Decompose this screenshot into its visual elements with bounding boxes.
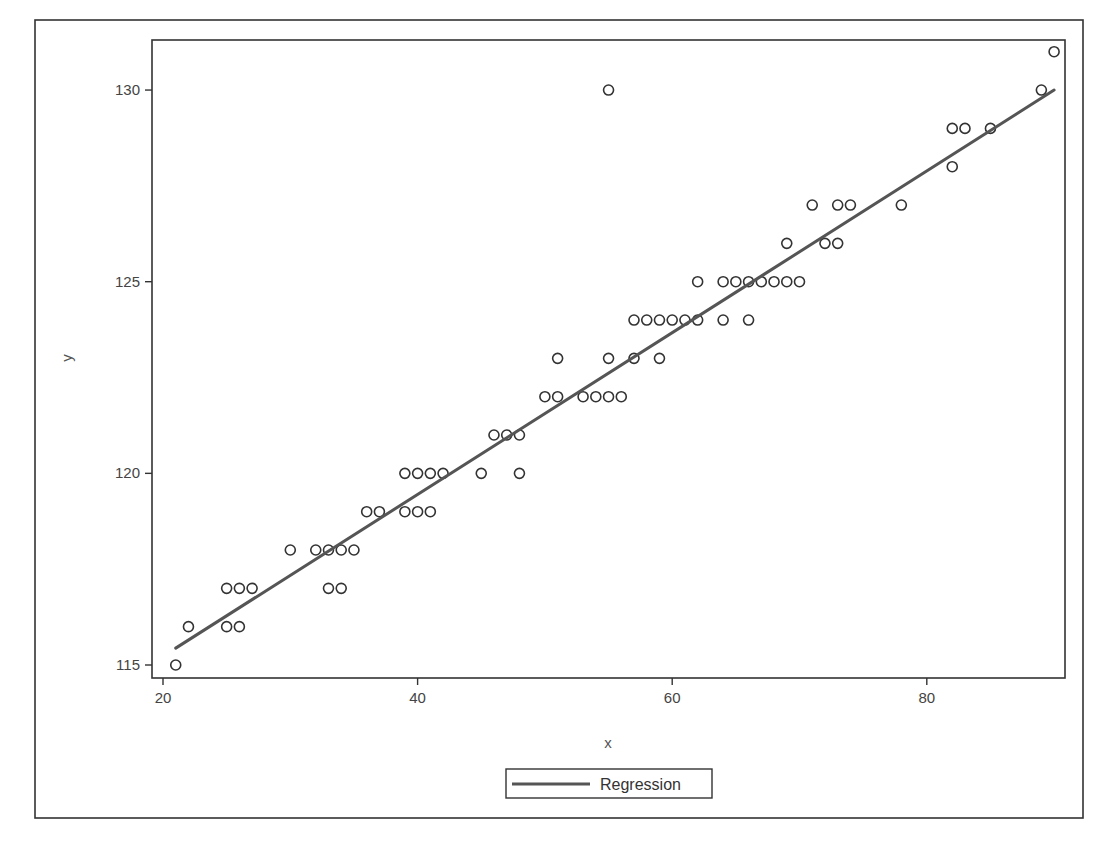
data-point — [285, 545, 295, 555]
data-point — [553, 353, 563, 363]
plot-frame — [152, 40, 1065, 678]
data-point — [400, 507, 410, 517]
regression-line — [176, 90, 1054, 648]
scatter-plot-with-regression: 20406080 115120125130 x y Regression — [0, 0, 1109, 846]
data-point — [413, 507, 423, 517]
data-point — [234, 622, 244, 632]
data-point — [171, 660, 181, 670]
data-point — [323, 583, 333, 593]
y-tick-label: 115 — [116, 656, 140, 673]
data-point — [833, 200, 843, 210]
data-point — [782, 277, 792, 287]
legend-label-regression: Regression — [600, 776, 681, 793]
plot-area — [152, 40, 1065, 678]
data-point — [960, 123, 970, 133]
data-point — [604, 392, 614, 402]
data-point — [183, 622, 193, 632]
data-point — [514, 468, 524, 478]
data-point — [604, 353, 614, 363]
x-tick-label: 20 — [155, 689, 172, 706]
data-point — [833, 238, 843, 248]
y-tick-label: 130 — [115, 81, 140, 98]
data-point — [642, 315, 652, 325]
data-point — [540, 392, 550, 402]
data-point — [782, 238, 792, 248]
data-point — [425, 468, 435, 478]
y-tick-label: 120 — [115, 464, 140, 481]
data-point — [947, 162, 957, 172]
x-axis: 20406080 — [155, 678, 935, 706]
data-points — [171, 47, 1059, 670]
x-tick-label: 40 — [409, 689, 426, 706]
data-point — [718, 277, 728, 287]
regression-line-path — [176, 90, 1054, 648]
data-point — [693, 277, 703, 287]
x-tick-label: 80 — [918, 689, 935, 706]
x-tick-label: 60 — [664, 689, 681, 706]
data-point — [947, 123, 957, 133]
data-point — [336, 583, 346, 593]
y-tick-label: 125 — [115, 273, 140, 290]
data-point — [1036, 85, 1046, 95]
data-point — [362, 507, 372, 517]
data-point — [234, 583, 244, 593]
data-point — [413, 468, 423, 478]
data-point — [489, 430, 499, 440]
data-point — [629, 315, 639, 325]
data-point — [616, 392, 626, 402]
data-point — [247, 583, 257, 593]
data-point — [1049, 47, 1059, 57]
x-axis-label: x — [604, 734, 612, 751]
data-point — [845, 200, 855, 210]
data-point — [667, 315, 677, 325]
data-point — [744, 315, 754, 325]
data-point — [476, 468, 486, 478]
data-point — [795, 277, 805, 287]
data-point — [222, 622, 232, 632]
data-point — [604, 85, 614, 95]
data-point — [311, 545, 321, 555]
data-point — [769, 277, 779, 287]
data-point — [400, 468, 410, 478]
data-point — [896, 200, 906, 210]
y-axis: 115120125130 — [115, 81, 152, 673]
data-point — [654, 315, 664, 325]
y-axis-label: y — [58, 354, 75, 362]
legend: Regression — [506, 769, 712, 798]
data-point — [718, 315, 728, 325]
data-point — [654, 353, 664, 363]
data-point — [807, 200, 817, 210]
data-point — [349, 545, 359, 555]
data-point — [222, 583, 232, 593]
data-point — [591, 392, 601, 402]
data-point — [553, 392, 563, 402]
data-point — [425, 507, 435, 517]
data-point — [820, 238, 830, 248]
data-point — [731, 277, 741, 287]
